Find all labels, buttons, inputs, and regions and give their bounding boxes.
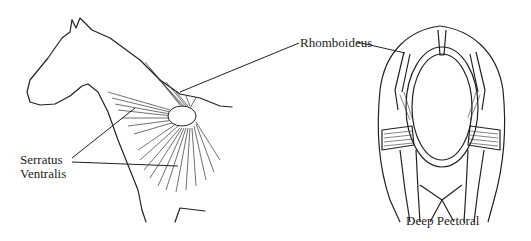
rhomboideus-leader [180,43,299,92]
serratus-leader-2 [72,162,178,166]
label-serratus: Serratus [20,152,63,167]
horse-outline [27,20,146,222]
serratus-ventralis-fan [108,62,220,192]
label-deep-pectoral: Deep Pectoral [406,213,479,228]
serratus-leader-1 [72,108,135,158]
horse-chest [175,208,205,222]
deep-pectoral-hatching [384,92,498,146]
horse-head-top [72,18,160,80]
label-rhomboideus: Rhomboideus [300,35,372,50]
anatomy-diagram [0,0,531,241]
label-ventralis: Ventralis [20,166,66,181]
thorax-section [378,26,505,222]
